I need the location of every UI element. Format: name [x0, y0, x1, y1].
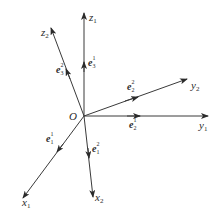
vector-label-e3-1-sup: 1 — [92, 55, 95, 61]
axis-label-z1: z1 — [89, 12, 97, 25]
vector-label-e2-2: e22 — [127, 82, 137, 94]
vector-label-e2-2-sup: 2 — [131, 79, 134, 85]
vector-label-e1-2-sup: 2 — [96, 141, 99, 147]
vector-label-e1-2-sub: 1 — [96, 149, 99, 155]
vector-e3-2-arrow — [66, 69, 70, 79]
origin-label: O — [69, 111, 77, 122]
vector-label-e3-2: e23 — [56, 65, 66, 77]
axis-label-x1-sub: 1 — [27, 202, 31, 210]
vector-label-e2-1-sub: 2 — [133, 125, 136, 131]
vector-label-e1-1-sup: 1 — [50, 131, 53, 137]
vector-label-e2-1-sup: 1 — [133, 117, 136, 123]
axis-label-x1: x1 — [22, 197, 30, 210]
vector-label-e1-2: e21 — [92, 144, 102, 156]
axis-label-y2: y2 — [191, 80, 199, 93]
vector-label-e1-1-sub: 1 — [50, 139, 53, 145]
vector-e2-2-arrow — [125, 97, 138, 101]
vector-label-e2-2-sub: 2 — [131, 87, 134, 93]
vector-label-e3-1-sub: 3 — [92, 63, 95, 69]
vector-label-e3-2-sup: 2 — [60, 62, 63, 68]
axis-x1 — [23, 116, 84, 198]
coordinate-frames-diagram — [0, 0, 222, 212]
vector-e1-1-arrow — [57, 144, 63, 152]
vector-label-e3-1: e13 — [88, 58, 98, 70]
axis-label-y1: y1 — [199, 120, 207, 133]
axis-label-x2-sub: 2 — [100, 197, 104, 205]
vector-label-e2-1: e12 — [129, 120, 139, 132]
axis-label-z1-sub: 1 — [93, 17, 97, 25]
axis-label-z2: z2 — [41, 27, 49, 40]
vector-label-e3-2-sub: 3 — [60, 70, 63, 76]
axis-label-y1-sub: 1 — [204, 125, 208, 133]
axis-label-x2: x2 — [95, 192, 103, 205]
vector-label-e1-1: e11 — [46, 134, 56, 146]
axis-label-y2-sub: 2 — [196, 85, 200, 93]
axis-label-z2-sub: 2 — [45, 32, 49, 40]
